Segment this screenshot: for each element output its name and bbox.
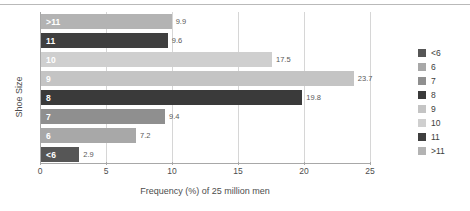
bar-row[interactable]: >119.9 (41, 14, 186, 29)
bar-value-label: 19.8 (306, 93, 321, 102)
bar-row[interactable]: <62.9 (41, 147, 94, 162)
legend-item[interactable]: 8 (418, 88, 466, 102)
bar-category-label: >11 (41, 17, 61, 27)
legend-label: <6 (431, 48, 441, 58)
legend-item[interactable]: 6 (418, 60, 466, 74)
bar-category-label: 9 (41, 74, 51, 84)
bar-category-label: 11 (41, 36, 55, 46)
bar[interactable]: >11 (41, 14, 172, 29)
x-tick-label: 25 (365, 166, 374, 176)
bar-chart-figure: Shoe Size >119.9119.61017.5923.7819.879.… (0, 0, 470, 211)
x-tick-mark (40, 162, 41, 165)
legend-item[interactable]: >11 (418, 144, 466, 158)
bar-row[interactable]: 119.6 (41, 33, 182, 48)
bar[interactable]: 7 (41, 109, 165, 124)
bar-value-label: 7.2 (140, 131, 150, 140)
legend-item[interactable]: 11 (418, 130, 466, 144)
bar-category-label: 10 (41, 55, 56, 65)
bar-category-label: 7 (41, 112, 51, 122)
x-tick-label: 5 (104, 166, 109, 176)
legend-label: >11 (431, 146, 445, 156)
bar-category-label: <6 (41, 150, 56, 160)
bar[interactable]: 6 (41, 128, 136, 143)
bar[interactable]: <6 (41, 147, 79, 162)
legend-swatch-icon (418, 63, 426, 71)
y-axis-title: Shoe Size (14, 37, 24, 157)
bar-row[interactable]: 1017.5 (41, 52, 291, 67)
legend-item[interactable]: <6 (418, 46, 466, 60)
legend-label: 7 (431, 76, 436, 86)
legend-swatch-icon (418, 147, 426, 155)
bar-row[interactable]: 819.8 (41, 90, 321, 105)
bar[interactable]: 9 (41, 71, 354, 86)
x-tick-mark (238, 162, 239, 165)
bar[interactable]: 8 (41, 90, 302, 105)
bar-row[interactable]: 67.2 (41, 128, 150, 143)
figure-top-rule (0, 4, 470, 5)
legend-swatch-icon (418, 119, 426, 127)
legend-swatch-icon (418, 77, 426, 85)
legend-label: 11 (431, 132, 440, 142)
bar-row[interactable]: 79.4 (41, 109, 180, 124)
x-tick-mark (370, 162, 371, 165)
bar-row[interactable]: 923.7 (41, 71, 372, 86)
bar-value-label: 17.5 (276, 55, 291, 64)
bar[interactable]: 11 (41, 33, 168, 48)
x-tick-mark (106, 162, 107, 165)
x-tick-label: 20 (299, 166, 308, 176)
gridline (370, 12, 371, 164)
x-axis-title: Frequency (%) of 25 million men (40, 186, 370, 196)
legend-item[interactable]: 10 (418, 116, 466, 130)
bar-category-label: 8 (41, 93, 51, 103)
bar-value-label: 9.9 (176, 17, 186, 26)
x-tick-mark (304, 162, 305, 165)
x-tick-label: 10 (167, 166, 176, 176)
bar-value-label: 9.6 (172, 36, 182, 45)
x-tick-label: 0 (38, 166, 43, 176)
legend-swatch-icon (418, 133, 426, 141)
bar[interactable]: 10 (41, 52, 272, 67)
bar-category-label: 6 (41, 131, 51, 141)
plot-area: >119.9119.61017.5923.7819.879.467.2<62.9 (40, 12, 370, 164)
legend-label: 10 (431, 118, 440, 128)
x-axis-ticks: 0510152025 (40, 166, 370, 180)
legend-item[interactable]: 7 (418, 74, 466, 88)
legend-label: 9 (431, 104, 436, 114)
chart-legend: <667891011>11 (418, 46, 466, 158)
bar-value-label: 9.4 (169, 112, 179, 121)
bar-value-label: 23.7 (358, 74, 373, 83)
legend-swatch-icon (418, 49, 426, 57)
bar-value-label: 2.9 (83, 150, 93, 159)
legend-swatch-icon (418, 105, 426, 113)
legend-item[interactable]: 9 (418, 102, 466, 116)
legend-swatch-icon (418, 91, 426, 99)
x-tick-label: 15 (233, 166, 242, 176)
legend-label: 6 (431, 62, 436, 72)
x-tick-mark (172, 162, 173, 165)
bar-series: >119.9119.61017.5923.7819.879.467.2<62.9 (40, 12, 370, 164)
legend-label: 8 (431, 90, 436, 100)
